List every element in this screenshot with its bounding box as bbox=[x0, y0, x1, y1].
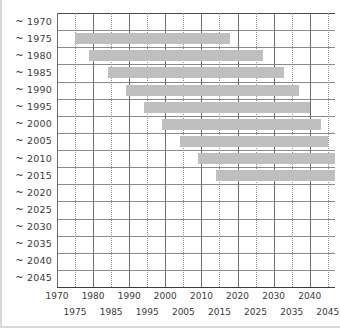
gantt-chart: ~ 1970~ 1975~ 1980~ 1985~ 1990~ 1995~ 20… bbox=[0, 0, 340, 328]
y-axis-label: ~ 2020 bbox=[15, 187, 52, 198]
grid-line-horizontal bbox=[57, 133, 335, 134]
x-axis-line bbox=[57, 287, 335, 288]
x-axis-label: 1980 bbox=[82, 291, 105, 301]
y-axis-label: ~ 2025 bbox=[15, 204, 52, 215]
gantt-bar bbox=[75, 33, 230, 44]
grid-line-horizontal bbox=[57, 236, 335, 237]
grid-line-major bbox=[310, 13, 311, 287]
grid-line-major bbox=[274, 13, 275, 287]
x-axis: 1970198019902000201020202030204019751985… bbox=[57, 287, 335, 328]
gantt-bar bbox=[162, 119, 321, 130]
grid-line-minor bbox=[75, 13, 76, 287]
x-axis-tick-major bbox=[201, 280, 202, 287]
y-axis-label: ~ 2040 bbox=[15, 255, 52, 266]
x-axis-label: 2010 bbox=[190, 291, 213, 301]
y-axis-label: ~ 2045 bbox=[15, 272, 52, 283]
x-axis-tick-major bbox=[93, 280, 94, 287]
gantt-bar bbox=[180, 136, 328, 147]
y-axis-label: ~ 1990 bbox=[15, 84, 52, 95]
grid-line-horizontal bbox=[57, 82, 335, 83]
x-axis-label: 1990 bbox=[118, 291, 141, 301]
grid-line-horizontal bbox=[57, 167, 335, 168]
x-axis-label: 2000 bbox=[154, 291, 177, 301]
gantt-bar bbox=[144, 102, 310, 113]
y-axis-labels: ~ 1970~ 1975~ 1980~ 1985~ 1990~ 1995~ 20… bbox=[0, 0, 57, 287]
x-axis-label: 2040 bbox=[298, 291, 321, 301]
y-axis-label: ~ 2015 bbox=[15, 170, 52, 181]
grid-line-horizontal bbox=[57, 99, 335, 100]
grid-line-horizontal bbox=[57, 253, 335, 254]
gantt-bar bbox=[198, 153, 335, 164]
x-axis-tick-major bbox=[238, 280, 239, 287]
y-axis-label: ~ 2005 bbox=[15, 135, 52, 146]
y-axis-label: ~ 2000 bbox=[15, 118, 52, 129]
x-axis-tick-major bbox=[165, 280, 166, 287]
y-axis-label: ~ 2030 bbox=[15, 221, 52, 232]
x-axis-label: 1995 bbox=[136, 307, 159, 317]
grid-line-horizontal bbox=[57, 184, 335, 185]
grid-line-horizontal bbox=[57, 116, 335, 117]
x-axis-tick-major bbox=[57, 280, 58, 287]
grid-line-minor bbox=[328, 13, 329, 287]
grid-line-major bbox=[57, 13, 58, 287]
y-axis-label: ~ 1975 bbox=[15, 33, 52, 44]
grid-line-horizontal bbox=[57, 13, 335, 14]
x-axis-label: 2035 bbox=[280, 307, 303, 317]
grid-line-horizontal bbox=[57, 64, 335, 65]
x-axis-label: 1975 bbox=[64, 307, 87, 317]
grid-line-horizontal bbox=[57, 150, 335, 151]
x-axis-label: 2045 bbox=[316, 307, 339, 317]
x-axis-label: 2015 bbox=[208, 307, 231, 317]
y-axis-label: ~ 1985 bbox=[15, 67, 52, 78]
y-axis-label: ~ 2010 bbox=[15, 153, 52, 164]
y-axis-label: ~ 1970 bbox=[15, 16, 52, 27]
gantt-bar bbox=[89, 50, 262, 61]
y-axis-label: ~ 1995 bbox=[15, 101, 52, 112]
gantt-bar bbox=[108, 67, 285, 78]
gantt-bar bbox=[126, 85, 299, 96]
x-axis-tick-major bbox=[274, 280, 275, 287]
grid-line-horizontal bbox=[57, 219, 335, 220]
plot-area bbox=[57, 13, 335, 287]
grid-line-horizontal bbox=[57, 201, 335, 202]
grid-line-horizontal bbox=[57, 47, 335, 48]
x-axis-label: 1970 bbox=[46, 291, 69, 301]
grid-line-minor bbox=[292, 13, 293, 287]
gantt-bar bbox=[216, 170, 335, 181]
x-axis-label: 2005 bbox=[172, 307, 195, 317]
x-axis-label: 2020 bbox=[226, 291, 249, 301]
y-axis-label: ~ 2035 bbox=[15, 238, 52, 249]
x-axis-label: 2025 bbox=[244, 307, 267, 317]
x-axis-label: 1985 bbox=[100, 307, 123, 317]
grid-line-horizontal bbox=[57, 30, 335, 31]
x-axis-tick-major bbox=[310, 280, 311, 287]
grid-line-horizontal bbox=[57, 270, 335, 271]
x-axis-label: 2030 bbox=[262, 291, 285, 301]
y-axis-label: ~ 1980 bbox=[15, 50, 52, 61]
x-axis-tick-major bbox=[129, 280, 130, 287]
